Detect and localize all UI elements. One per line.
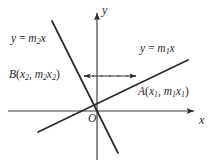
line-m1-equation-label: y = m1x	[140, 43, 175, 55]
y-axis-label: y	[102, 4, 107, 16]
origin-label: O	[88, 113, 96, 125]
line-m2-equation-label: y = m2x	[11, 33, 46, 45]
point-b-label: B(x2, m2x2)	[9, 69, 60, 81]
figure-canvas	[0, 0, 218, 167]
line-m2	[52, 21, 118, 153]
point-a-label: A(x1, m1x1)	[138, 86, 189, 98]
x-axis-label: x	[199, 114, 204, 126]
coordinate-figure: y = m2x y = m1x B(x2, m2x2) A(x1, m1x1) …	[0, 0, 218, 167]
